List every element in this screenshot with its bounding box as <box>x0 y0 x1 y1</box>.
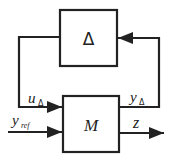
z-label: z <box>132 114 140 131</box>
svg-text:z: z <box>132 114 140 131</box>
y-ref-label: y ref <box>10 112 31 130</box>
m-label: M <box>83 116 99 135</box>
svg-text:ref: ref <box>21 121 31 130</box>
u-delta-wire <box>19 37 62 107</box>
svg-text:y: y <box>128 89 137 105</box>
svg-text:u: u <box>28 90 36 106</box>
svg-text:Δ: Δ <box>38 99 44 108</box>
m-block: M <box>63 96 119 152</box>
u-delta-label: u Δ <box>28 90 44 108</box>
svg-text:y: y <box>10 112 19 128</box>
delta-block: Δ <box>60 10 117 66</box>
svg-text:Δ: Δ <box>139 98 145 107</box>
delta-label: Δ <box>83 29 95 49</box>
y-delta-wire <box>118 38 159 107</box>
lft-diagram: Δ M u Δ y Δ y ref z <box>0 0 173 162</box>
y-delta-label: y Δ <box>128 89 145 107</box>
